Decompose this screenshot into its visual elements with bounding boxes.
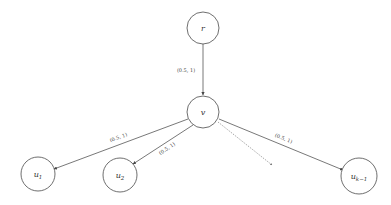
node-v: v xyxy=(187,96,219,128)
node-label-subscript: 1 xyxy=(39,174,43,180)
edge-label: (0.5, 1) xyxy=(109,131,128,143)
edge-line-dotted xyxy=(218,122,272,165)
node-u1: u1 xyxy=(21,157,55,191)
edge-line xyxy=(133,125,193,164)
node-u2: u2 xyxy=(103,158,137,192)
edge-r-v: (0.5, 1) xyxy=(177,44,203,95)
edge-v-ellipsis xyxy=(218,122,272,165)
node-label-subscript: 2 xyxy=(120,175,125,181)
edge-v-u2: (0.5, 1) xyxy=(133,125,193,164)
node-label-subscript: k−1 xyxy=(356,176,367,182)
node-r: r xyxy=(187,12,219,44)
edge-line xyxy=(219,119,343,170)
edge-label: (0.5, 1) xyxy=(158,141,177,156)
edge-label: (0.5, 1) xyxy=(177,67,195,73)
tree-diagram: (0.5, 1) (0.5, 1) (0.5, 1) (0.5, 1) r v … xyxy=(0,0,391,205)
node-uk-minus-1: uk−1 xyxy=(341,158,377,194)
node-label: v xyxy=(201,108,206,117)
edge-v-uk1: (0.5, 1) xyxy=(219,119,343,170)
